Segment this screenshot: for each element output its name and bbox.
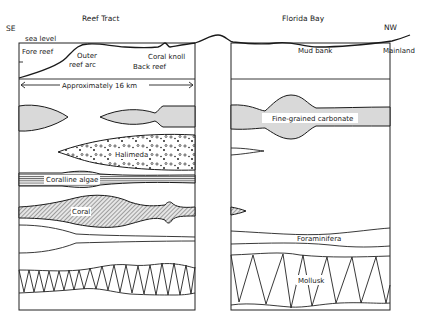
mollusk-facies: Mollusk bbox=[19, 253, 390, 308]
reef-tract-title: Reef Tract bbox=[82, 14, 119, 23]
coralline-algae-label: Coralline algae bbox=[46, 176, 98, 184]
direction-nw-label: NW bbox=[384, 23, 398, 32]
halimeda-label: Halimeda bbox=[115, 151, 148, 159]
scale-bar-label: Approximately 16 km bbox=[62, 82, 137, 90]
direction-se-label: SE bbox=[6, 24, 16, 33]
mainland-label: Mainland bbox=[383, 47, 415, 55]
coralline-algae-facies: Coralline algae bbox=[19, 171, 195, 187]
foraminifera-facies: Foraminifera bbox=[19, 225, 390, 253]
mud-bank-label: Mud bank bbox=[298, 47, 333, 55]
mollusk-label: Mollusk bbox=[298, 277, 325, 285]
fine-grained-carbonate-label: Fine-grained carbonate bbox=[272, 115, 353, 123]
scale-bar: Approximately 16 km bbox=[21, 82, 193, 90]
outer-reef-arc-label-2: reef arc bbox=[69, 61, 96, 69]
coral-facies: Coral bbox=[19, 195, 246, 227]
sediment-distribution-diagram: Reef Tract Florida Bay SE NW sea level F… bbox=[0, 0, 429, 325]
outer-reef-arc-label-1: Outer bbox=[77, 52, 97, 60]
back-reef-label: Back reef bbox=[133, 63, 167, 71]
fine-grained-carbonate-facies: Fine-grained carbonate bbox=[19, 95, 390, 139]
halimeda-facies: Halimeda bbox=[58, 134, 264, 170]
sea-level-label: sea level bbox=[25, 35, 56, 43]
coral-knoll-label: Coral knoll bbox=[148, 53, 185, 61]
fore-reef-label: Fore reef bbox=[22, 48, 54, 56]
florida-bay-title: Florida Bay bbox=[282, 14, 325, 23]
coral-label: Coral bbox=[72, 208, 90, 216]
florida-bay-panel-frame bbox=[231, 43, 390, 310]
foraminifera-label: Foraminifera bbox=[297, 235, 341, 243]
